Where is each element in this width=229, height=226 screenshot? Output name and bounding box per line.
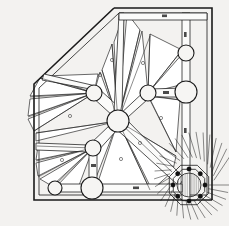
dim-mid-right bbox=[163, 91, 169, 94]
node-lower-left bbox=[85, 140, 101, 156]
roof-framing-plan bbox=[0, 0, 229, 226]
main-hub-node bbox=[107, 110, 129, 132]
drawing-canvas bbox=[0, 0, 229, 226]
node-right-upper bbox=[178, 45, 194, 61]
node-right-major bbox=[175, 81, 197, 103]
node-upper-left bbox=[86, 85, 102, 101]
member-tag-3 bbox=[68, 114, 71, 117]
node-bottom-left bbox=[48, 181, 62, 195]
dim-right-mid bbox=[184, 128, 187, 133]
dim-right-up bbox=[184, 32, 187, 37]
dim-top bbox=[162, 15, 167, 18]
node-bottom-mid bbox=[81, 177, 103, 199]
dim-left-mid bbox=[91, 164, 96, 167]
node-mid-right bbox=[140, 85, 156, 101]
dim-bottom bbox=[133, 187, 139, 190]
